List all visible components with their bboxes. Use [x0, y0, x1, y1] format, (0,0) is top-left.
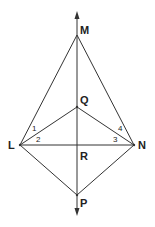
- segment-qn: [77, 107, 134, 145]
- label-q: Q: [80, 94, 89, 106]
- segment-lm: [20, 35, 77, 145]
- point-n: [133, 144, 135, 146]
- label-n: N: [138, 139, 146, 151]
- label-m: M: [80, 24, 89, 36]
- angle-label-1: 1: [32, 124, 37, 133]
- angle-label-2: 2: [36, 135, 41, 144]
- label-r: R: [80, 150, 88, 162]
- point-p: [76, 194, 78, 196]
- segment-lp: [20, 145, 77, 195]
- label-l: L: [8, 139, 15, 151]
- geometry-diagram: M Q L N R P 1 2 3 4: [0, 0, 155, 227]
- arrow-up-icon: [75, 11, 80, 19]
- point-l: [19, 144, 21, 146]
- angle-label-4: 4: [118, 124, 123, 133]
- point-q: [76, 106, 78, 108]
- segment-lq: [20, 107, 77, 145]
- segment-mn: [77, 35, 134, 145]
- label-p: P: [80, 197, 87, 209]
- angle-label-3: 3: [113, 135, 118, 144]
- arrow-down-icon: [75, 208, 80, 216]
